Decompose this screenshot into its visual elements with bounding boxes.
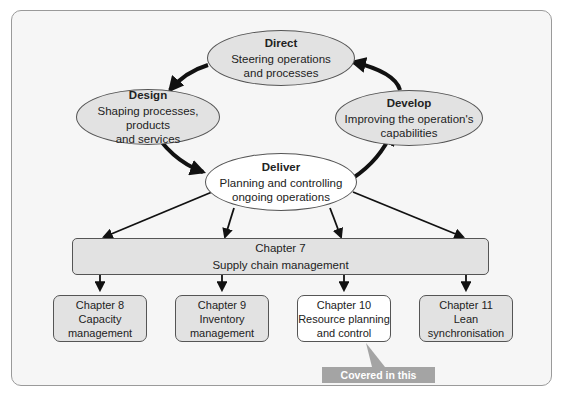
chapter-9-title-line1: Inventory	[199, 312, 244, 326]
direct-title: Direct	[265, 36, 298, 50]
chapter-10-title-line2: and control	[317, 326, 371, 340]
chapter-8-title-line1: Capacity	[79, 312, 122, 326]
deliver-ellipse: Deliver Planning and controlling ongoing…	[205, 153, 357, 211]
design-title: Design	[129, 88, 167, 102]
develop-ellipse: Develop Improving the operation's capabi…	[335, 90, 483, 146]
develop-desc-line2: capabilities	[381, 126, 438, 140]
direct-desc-line2: and processes	[244, 66, 319, 80]
chapter-7-label: Chapter 7	[255, 240, 306, 257]
chapter-9-title-line2: management	[190, 326, 254, 340]
design-desc-line1: Shaping processes, products	[77, 104, 219, 132]
chapter-10-label: Chapter 10	[317, 298, 371, 312]
chapter-8-box: Chapter 8 Capacity management	[53, 295, 147, 342]
chapter-11-title-line1: Lean	[454, 312, 478, 326]
chapter-8-title-line2: management	[68, 326, 132, 340]
direct-ellipse: Direct Steering operations and processes	[207, 30, 355, 86]
direct-desc-line1: Steering operations	[231, 52, 331, 66]
chapter-10-box: Chapter 10 Resource planning and control	[297, 295, 391, 342]
chapter-11-box: Chapter 11 Lean synchronisation	[419, 295, 513, 342]
covered-callout: Covered in this chapter	[322, 367, 435, 383]
chapter-7-box: Chapter 7 Supply chain management	[72, 238, 489, 275]
chapter-9-box: Chapter 9 Inventory management	[175, 295, 269, 342]
chapter-9-label: Chapter 9	[198, 298, 246, 312]
deliver-title: Deliver	[262, 160, 300, 174]
design-desc-line2: and services	[116, 132, 181, 146]
deliver-desc-line1: Planning and controlling	[220, 176, 343, 190]
chapter-11-title-line2: synchronisation	[428, 326, 504, 340]
chapter-11-label: Chapter 11	[439, 298, 493, 312]
chapter-10-title-line1: Resource planning	[298, 312, 390, 326]
chapter-8-label: Chapter 8	[76, 298, 124, 312]
develop-desc-line1: Improving the operation's	[345, 112, 474, 126]
chapter-7-title: Supply chain management	[212, 257, 348, 274]
design-ellipse: Design Shaping processes, products and s…	[76, 89, 220, 145]
deliver-desc-line2: ongoing operations	[232, 190, 330, 204]
develop-title: Develop	[387, 96, 432, 110]
